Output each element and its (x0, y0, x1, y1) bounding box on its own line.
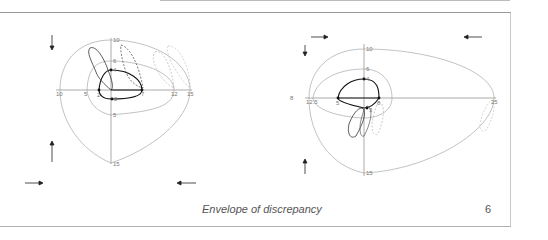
right-xtick-8: 8 (290, 95, 294, 101)
right-diagram: 8 12.5 5 8 25 10 6 4 3 15 (290, 35, 498, 176)
left-point-4 (110, 69, 113, 72)
left-xtick-10: 10 (56, 91, 63, 97)
left-middle-envelope (87, 61, 174, 115)
right-solid-lobe-1 (348, 108, 364, 137)
right-outer-envelope (309, 49, 494, 173)
left-ytick-5: 5 (113, 112, 117, 118)
left-outer-envelope (60, 40, 190, 163)
left-xtick-15: 15 (187, 91, 194, 97)
right-xtick-5: 5 (336, 100, 340, 106)
figure-caption: Envelope of discrepancy (202, 203, 322, 215)
left-xtick-7: 7 (141, 91, 145, 97)
right-point-8 (378, 97, 381, 100)
left-diagram: 10 5 2 7 12 15 10 6 4 2 5 15 (25, 35, 196, 185)
left-solid-lobe (89, 48, 113, 90)
right-dashed-lobe-1 (372, 102, 383, 135)
left-point-2b (111, 98, 114, 101)
right-ytick-15: 15 (366, 170, 373, 176)
left-point-2a (98, 89, 101, 92)
left-dashed-lobe-3 (167, 46, 190, 88)
left-xtick-12: 12 (171, 91, 178, 97)
right-point-3 (366, 107, 369, 110)
left-ytick-15: 15 (113, 161, 120, 167)
page-number: 6 (485, 203, 491, 215)
right-xtick-25: 25 (491, 99, 498, 105)
right-point-5 (337, 97, 340, 100)
right-xtick-12-5: 12.5 (306, 99, 318, 105)
right-ytick-4: 4 (366, 76, 370, 82)
right-ytick-3: 3 (369, 107, 373, 113)
right-ytick-10: 10 (366, 46, 373, 52)
right-inner-loop (338, 79, 379, 108)
right-middle-envelope (313, 69, 392, 118)
right-ytick-6: 6 (366, 66, 370, 72)
left-ytick-10: 10 (113, 37, 120, 43)
right-point-4 (363, 78, 366, 81)
